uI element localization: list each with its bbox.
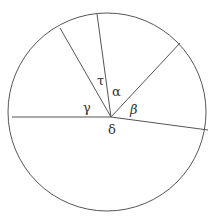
ray-upper-right [111, 43, 180, 117]
label-beta: β [129, 102, 138, 117]
label-delta: δ [108, 122, 116, 137]
label-gamma: γ [83, 100, 91, 115]
ray-right [111, 117, 208, 130]
label-tau: τ [97, 73, 104, 88]
rays [12, 14, 208, 130]
ray-upper-center [97, 14, 111, 117]
outer-circle [8, 13, 206, 211]
label-alpha: α [112, 84, 121, 99]
circle-sector-diagram: τ α γ β δ [0, 0, 215, 224]
